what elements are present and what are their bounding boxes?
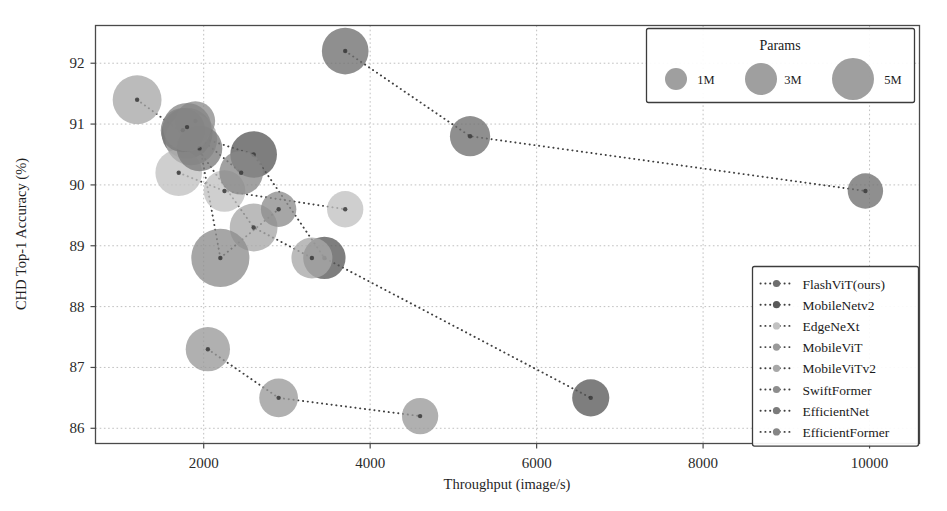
x-axis-title: Throughput (image/s) xyxy=(444,476,571,493)
legend-entry-label: SwiftFormer xyxy=(803,383,873,398)
bubble-center-marker xyxy=(218,256,222,260)
series-legend-box xyxy=(753,267,919,447)
bubble-center-marker xyxy=(185,125,189,129)
legend-entry-label: EfficientNet xyxy=(803,404,870,419)
x-tick-label: 4000 xyxy=(355,455,385,471)
legend-marker-icon xyxy=(773,365,780,372)
bubble-center-marker xyxy=(310,256,314,260)
bubble-center-marker xyxy=(239,171,243,175)
y-tick-label: 90 xyxy=(70,177,85,193)
params-legend-title: Params xyxy=(759,38,800,53)
bubble-center-marker xyxy=(251,225,255,229)
series-legend[interactable]: FlashViT(ours)MobileNetv2EdgeNeXtMobileV… xyxy=(753,267,919,447)
bubble-center-marker xyxy=(468,134,472,138)
y-tick-label: 91 xyxy=(70,116,85,132)
chart-canvas: 200040006000800010000 86878889909192 Thr… xyxy=(0,0,947,511)
params-legend-bubble xyxy=(832,58,874,100)
x-tick-label: 2000 xyxy=(189,455,219,471)
y-tick-label: 92 xyxy=(70,55,85,71)
bubble-center-marker xyxy=(276,396,280,400)
legend-marker-icon xyxy=(773,386,780,393)
legend-entry-label: EfficientFormer xyxy=(803,425,890,440)
params-legend-label: 3M xyxy=(784,73,801,87)
params-legend-label: 1M xyxy=(697,73,714,87)
y-tick-label: 86 xyxy=(70,420,86,436)
x-tick-label: 8000 xyxy=(688,455,718,471)
y-tick-label: 88 xyxy=(70,299,85,315)
params-legend-bubble xyxy=(665,68,687,90)
bubble-center-marker xyxy=(343,49,347,53)
bubble-center-marker xyxy=(863,189,867,193)
legend-entry-label: MobileNetv2 xyxy=(803,298,875,313)
y-tick-label: 87 xyxy=(70,359,86,375)
legend-marker-icon xyxy=(773,280,780,287)
legend-marker-icon xyxy=(773,428,780,435)
legend-entry-label: EdgeNeXt xyxy=(803,319,860,334)
legend-entry-label: MobileViT xyxy=(803,340,864,355)
legend-entry-label: FlashViT(ours) xyxy=(803,277,885,292)
bubble-center-marker xyxy=(177,171,181,175)
legend-marker-icon xyxy=(773,322,780,329)
y-axis-title: CHD Top-1 Accuracy (%) xyxy=(13,158,30,310)
bubble-center-marker xyxy=(135,98,139,102)
legend-marker-icon xyxy=(773,301,780,308)
bubble-center-marker xyxy=(343,207,347,211)
legend-marker-icon xyxy=(773,344,780,351)
bubble-center-marker xyxy=(589,396,593,400)
bubble-center-marker xyxy=(276,207,280,211)
bubble-center-marker xyxy=(222,189,226,193)
params-legend-bubble xyxy=(745,63,777,95)
x-tick-label: 6000 xyxy=(522,455,552,471)
params-legend-label: 5M xyxy=(884,73,901,87)
x-tick-label: 10000 xyxy=(851,455,889,471)
bubble-center-marker xyxy=(418,414,422,418)
bubble-center-marker xyxy=(206,347,210,351)
params-size-legend: Params1M3M5M xyxy=(647,29,915,103)
y-tick-label: 89 xyxy=(70,238,85,254)
bubble-chart: 200040006000800010000 86878889909192 Thr… xyxy=(0,0,947,511)
legend-marker-icon xyxy=(773,407,780,414)
legend-entry-label: MobileViTv2 xyxy=(803,361,876,376)
